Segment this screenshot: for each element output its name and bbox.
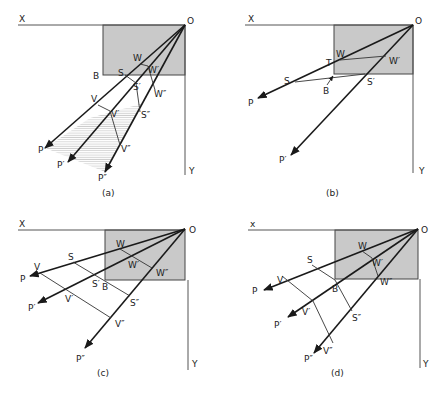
label-B: B <box>332 284 338 294</box>
caption-d: (d) <box>331 368 344 378</box>
label-V1: V′ <box>111 109 119 119</box>
pointer-B <box>327 76 333 85</box>
label-V1: V′ <box>302 307 310 317</box>
label-V: V <box>277 275 284 285</box>
label-S: S <box>284 76 290 86</box>
label-V: V <box>91 94 98 104</box>
label-P1: P′ <box>57 160 64 170</box>
label-W2: W″ <box>380 277 393 287</box>
label-V2: V″ <box>115 319 125 329</box>
label-W: W <box>336 49 345 59</box>
label-P: P <box>38 145 44 155</box>
figure-canvas: X O Y B W W′ W″ S S′ S″ V V′ V″ P P′ P″ … <box>0 0 438 397</box>
label-x-axis: x <box>250 219 256 229</box>
caption-b: (b) <box>326 188 339 198</box>
label-S1: S′ <box>133 82 141 92</box>
label-P: P <box>248 98 254 108</box>
shaded-rect <box>105 230 185 280</box>
label-origin: O <box>187 16 194 26</box>
label-W1: W′ <box>372 258 383 268</box>
label-x-axis: X <box>248 14 254 24</box>
label-S1: S′ <box>92 279 100 289</box>
label-y-axis: Y <box>418 166 425 176</box>
label-B: B <box>93 71 99 81</box>
label-B: B <box>323 86 329 96</box>
label-T: T <box>325 58 332 68</box>
label-S2: S″ <box>352 313 362 323</box>
label-y-axis: Y <box>188 166 195 176</box>
label-origin: O <box>415 16 422 26</box>
label-S2: S″ <box>141 110 151 120</box>
shaded-rect <box>103 25 185 75</box>
label-W1: W′ <box>128 260 139 270</box>
label-origin: O <box>421 225 428 235</box>
label-S: S <box>68 252 74 262</box>
label-P1: P′ <box>28 303 35 313</box>
label-P2: P″ <box>76 354 85 364</box>
label-P2: P″ <box>98 173 107 183</box>
caption-c: (c) <box>97 368 109 378</box>
label-V1: V′ <box>65 294 73 304</box>
label-S1: S′ <box>367 77 375 87</box>
panel-c: X O Y W W′ W″ S S′ B S″ V V′ V″ P P′ P″ … <box>18 219 198 378</box>
label-y-axis: Y <box>422 359 429 369</box>
label-P: P <box>20 274 26 284</box>
label-P1: P′ <box>279 155 286 165</box>
label-V2: V″ <box>323 346 333 356</box>
label-origin: O <box>189 225 196 235</box>
label-W: W <box>116 239 125 249</box>
label-P1: P′ <box>274 320 281 330</box>
label-S: S <box>118 68 124 78</box>
label-W2: W″ <box>156 268 169 278</box>
label-V: V <box>34 262 41 272</box>
panel-a: X O Y B W W′ W″ S S′ S″ V V′ V″ P P′ P″ … <box>18 14 195 198</box>
label-S2: S″ <box>130 298 140 308</box>
label-P2: P″ <box>304 354 313 364</box>
label-V2: V″ <box>121 144 131 154</box>
label-x-axis: X <box>19 14 25 24</box>
wavefront-V <box>40 273 111 318</box>
label-y-axis: Y <box>191 359 198 369</box>
label-S: S <box>307 255 313 265</box>
label-W1: W′ <box>148 65 159 75</box>
caption-a: (a) <box>102 188 115 198</box>
label-B: B <box>102 282 108 292</box>
panel-b: X O Y T W W′ S S′ B P P′ (b) <box>245 14 425 198</box>
label-W1: W′ <box>389 56 400 66</box>
label-P: P <box>252 286 258 296</box>
label-W: W <box>133 53 142 63</box>
panel-d: x O Y W W′ W″ S B S″ V V′ V″ P P′ P″ (d) <box>248 219 429 378</box>
label-W2: W″ <box>154 89 167 99</box>
label-W: W <box>358 241 367 251</box>
label-x-axis: X <box>19 219 25 229</box>
